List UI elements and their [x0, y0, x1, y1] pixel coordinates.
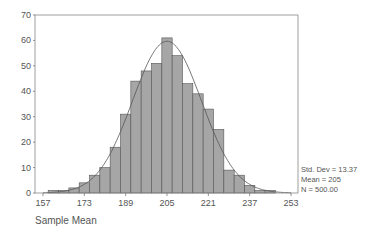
y-tick-label: 60: [21, 35, 31, 45]
y-tick-label: 0: [26, 188, 31, 198]
y-tick-label: 50: [21, 61, 31, 71]
histogram-bar: [234, 175, 244, 193]
y-tick-label: 10: [21, 163, 31, 173]
n-label: N = 500.00: [301, 185, 357, 195]
y-tick-label: 40: [21, 86, 31, 96]
x-tick-label: 205: [159, 198, 174, 208]
x-tick-label: 173: [77, 198, 92, 208]
histogram-bar: [224, 170, 234, 193]
x-tick-label: 221: [201, 198, 216, 208]
y-tick-label: 20: [21, 137, 31, 147]
std-dev-label: Std. Dev = 13.37: [301, 165, 357, 175]
histogram-bar: [193, 94, 203, 193]
x-tick-label: 253: [283, 198, 298, 208]
x-tick-label: 157: [35, 198, 50, 208]
histogram-bar: [183, 84, 193, 193]
x-axis: 157173189205221237253: [35, 193, 298, 208]
histogram-bars: [48, 38, 275, 193]
histogram-bar: [100, 168, 110, 193]
histogram-bar: [121, 114, 131, 193]
x-axis-label: Sample Mean: [35, 215, 97, 226]
mean-label: Mean = 205: [301, 175, 357, 185]
x-tick-label: 189: [118, 198, 133, 208]
x-tick-label: 237: [242, 198, 257, 208]
histogram-bar: [172, 56, 182, 193]
histogram-bar: [141, 71, 151, 193]
histogram-bar: [152, 63, 162, 193]
histogram-bar: [90, 175, 100, 193]
summary-stats: Std. Dev = 13.37 Mean = 205 N = 500.00: [301, 165, 357, 195]
histogram-bar: [110, 147, 120, 193]
histogram-bar: [162, 38, 172, 193]
y-axis: 010203040506070: [21, 10, 35, 198]
histogram-bar: [203, 109, 213, 193]
histogram-chart: 010203040506070 157173189205221237253: [0, 0, 375, 236]
y-tick-label: 30: [21, 112, 31, 122]
histogram-bar: [131, 81, 141, 193]
y-tick-label: 70: [21, 10, 31, 20]
histogram-bar: [214, 129, 224, 193]
